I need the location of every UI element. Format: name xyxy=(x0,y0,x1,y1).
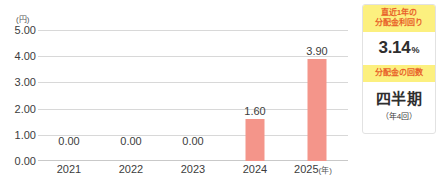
bar-column-2025: 3.90 xyxy=(286,30,348,161)
x-tick-2024: 2024 xyxy=(224,163,286,175)
bar-value-2025: 3.90 xyxy=(306,45,327,57)
bar-value-2021: 0.00 xyxy=(58,135,79,147)
x-tick-2021: 2021 xyxy=(38,163,100,175)
bar-value-2022: 0.00 xyxy=(120,135,141,147)
frequency-sub-label: （年4回） xyxy=(365,110,433,121)
y-tick-2: 2.00 xyxy=(2,103,36,115)
chart-figure: (円) 5.00 4.00 3.00 2.00 1.00 0.00 0.00 xyxy=(0,0,440,195)
x-tick-2024-text: 2024 xyxy=(243,163,267,175)
y-axis-tick-labels: 5.00 4.00 3.00 2.00 1.00 0.00 xyxy=(0,30,36,161)
y-tick-5: 5.00 xyxy=(2,24,36,36)
x-tick-2022-text: 2022 xyxy=(119,163,143,175)
x-tick-2022: 2022 xyxy=(100,163,162,175)
y-tick-1: 1.00 xyxy=(2,129,36,141)
frequency-header-text: 分配金の回数 xyxy=(375,68,423,77)
summary-panel: 直近1年の 分配金利回り 3.14% 分配金の回数 四半期 （年4回） xyxy=(362,4,436,134)
frequency-value: 四半期 xyxy=(365,87,433,108)
bar-series: 0.00 0.00 0.00 1.60 3.90 xyxy=(38,30,348,161)
bar-column-2022: 0.00 xyxy=(100,30,162,161)
frequency-value-block: 四半期 （年4回） xyxy=(363,82,435,126)
y-tick-0: 0.00 xyxy=(2,155,36,167)
x-axis-tick-labels: 2021 2022 2023 2024 2025(年) xyxy=(38,163,348,183)
x-axis-unit-label: (年) xyxy=(319,166,332,175)
y-axis-unit-label: (円) xyxy=(16,13,29,24)
distribution-bar-chart: (円) 5.00 4.00 3.00 2.00 1.00 0.00 0.00 xyxy=(0,0,356,195)
bar-column-2024: 1.60 xyxy=(224,30,286,161)
frequency-header: 分配金の回数 xyxy=(363,65,435,82)
yield-unit: % xyxy=(411,45,419,55)
bar-value-2024: 1.60 xyxy=(244,105,265,117)
x-tick-2023: 2023 xyxy=(162,163,224,175)
yield-header-line2: 分配金利回り xyxy=(365,18,433,28)
y-tick-3: 3.00 xyxy=(2,76,36,88)
bar-value-2023: 0.00 xyxy=(182,135,203,147)
x-tick-2023-text: 2023 xyxy=(181,163,205,175)
bar-2024 xyxy=(246,119,265,161)
bar-column-2023: 0.00 xyxy=(162,30,224,161)
bar-2025 xyxy=(308,59,327,161)
yield-value-block: 3.14% xyxy=(363,32,435,65)
bar-column-2021: 0.00 xyxy=(38,30,100,161)
yield-value: 3.14 xyxy=(379,38,411,57)
y-tick-4: 4.00 xyxy=(2,50,36,62)
yield-header-line1: 直近1年の xyxy=(381,8,417,17)
x-tick-2025-text: 2025 xyxy=(294,163,318,175)
x-tick-2021-text: 2021 xyxy=(57,163,81,175)
x-tick-2025: 2025(年) xyxy=(282,163,344,175)
yield-header: 直近1年の 分配金利回り xyxy=(363,5,435,32)
